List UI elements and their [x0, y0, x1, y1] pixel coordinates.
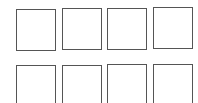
- empty-box-r1-c3: [107, 8, 147, 50]
- empty-box-r2-c4: [153, 64, 193, 103]
- empty-box-r2-c3: [107, 64, 147, 103]
- empty-box-r1-c4: [153, 7, 193, 49]
- empty-box-grid: [0, 0, 198, 103]
- empty-box-r2-c2: [62, 65, 102, 103]
- empty-box-r2-c1: [16, 65, 56, 103]
- empty-box-r1-c2: [62, 8, 102, 50]
- empty-box-r1-c1: [16, 9, 56, 51]
